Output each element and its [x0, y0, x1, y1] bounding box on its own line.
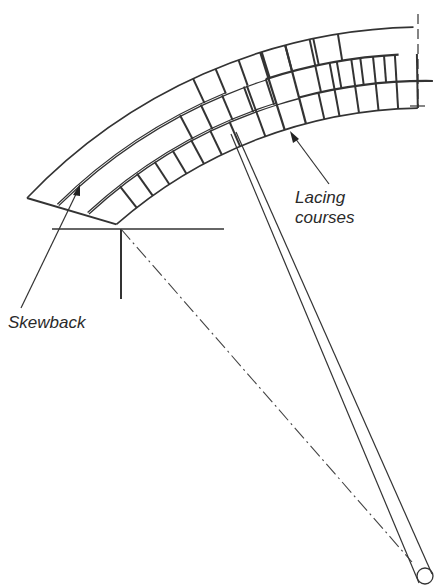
brick-joint — [216, 69, 226, 94]
brick-joint — [384, 56, 386, 83]
brick-joint — [337, 62, 342, 89]
arch-rings — [27, 27, 433, 224]
brick-joint — [222, 95, 233, 120]
brick-joint — [260, 53, 284, 130]
arch-arc — [57, 93, 225, 204]
lacing-arrow-line — [295, 138, 329, 184]
brick-joint — [360, 58, 363, 85]
brick-joint — [247, 86, 265, 137]
brick-joint — [193, 79, 204, 104]
brick-joint — [239, 60, 248, 85]
brick-joint — [262, 52, 270, 78]
lacing-courses-label: Lacing courses — [295, 188, 355, 228]
skewback-arrow-line — [21, 190, 78, 308]
brick-joint — [201, 105, 213, 129]
brick-joint — [155, 162, 170, 185]
brick-joint — [191, 140, 204, 164]
brick-joint — [318, 93, 324, 119]
brick-joint — [338, 34, 342, 61]
arch-arc — [116, 108, 417, 224]
brick-joint — [137, 174, 153, 196]
arch-arc — [59, 95, 226, 206]
lacing-label-line2: courses — [295, 208, 355, 228]
brick-joint — [120, 186, 137, 207]
brick-joints — [120, 34, 418, 208]
arch-arc — [277, 99, 300, 106]
radial-centre-line — [121, 229, 412, 562]
pivot-circle — [417, 568, 433, 584]
brick-joint — [210, 130, 222, 154]
skewback-label: Skewback — [8, 313, 85, 333]
brick-joint — [285, 45, 306, 123]
lacing-label-line1: Lacing — [295, 188, 355, 208]
arch-diagram — [0, 0, 435, 588]
brick-joint — [173, 150, 187, 173]
brick-joint — [180, 115, 193, 139]
